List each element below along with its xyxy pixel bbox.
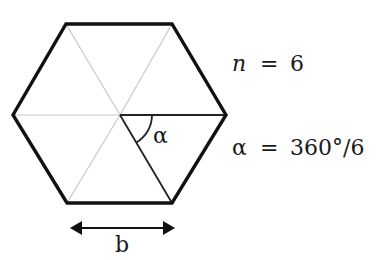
n-value: 6 (290, 51, 304, 76)
angle-arc (136, 115, 152, 143)
equation-n: n = 6 (232, 51, 304, 76)
angle-label: α (153, 123, 168, 148)
side-label: b (115, 232, 129, 257)
inner-radii-light (13, 24, 172, 203)
n-equals: = (260, 51, 278, 76)
alpha-value: 360°/6 (290, 135, 364, 160)
alpha-equals: = (260, 135, 278, 160)
inner-radii-dark (120, 115, 226, 203)
hexagon-diagram: α b n = 6 α = 360°/6 (0, 0, 378, 260)
alpha-variable: α (232, 135, 247, 160)
n-variable: n (232, 51, 246, 76)
equation-alpha: α = 360°/6 (232, 135, 364, 160)
